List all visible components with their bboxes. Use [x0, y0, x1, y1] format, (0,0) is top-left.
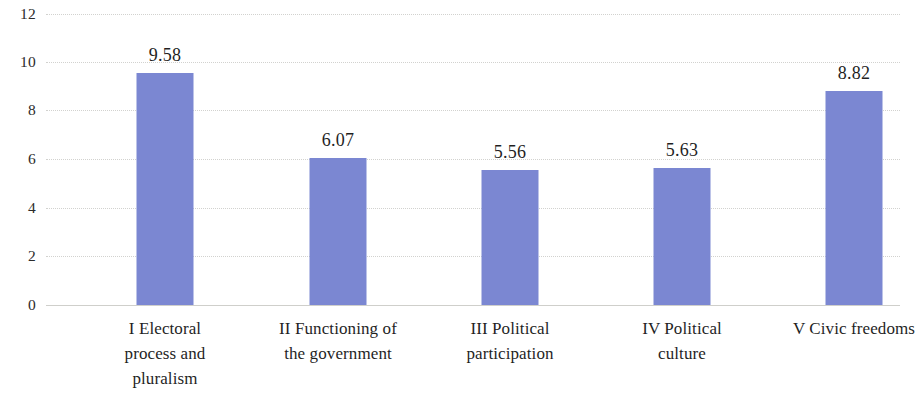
bar-civic-freedoms[interactable]	[826, 91, 883, 305]
y-axis-tick-6: 6	[0, 151, 36, 167]
bar-political-culture[interactable]	[654, 168, 711, 305]
x-axis-label-functioning-of-the-government: II Functioning of the government	[253, 316, 423, 366]
x-axis-labels: I Electoral process and pluralism II Fun…	[46, 310, 900, 406]
x-axis-label-political-participation: III Political participation	[425, 316, 595, 366]
bar-slot-2: 6.07	[253, 0, 423, 305]
bars-layer: 9.58 6.07 5.56 5.63 8.82	[46, 0, 900, 306]
x-axis-label-civic-freedoms: V Civic freedoms	[769, 316, 919, 341]
y-axis-tick-0: 0	[0, 297, 36, 313]
y-axis-tick-12: 12	[0, 6, 36, 22]
bar-slot-4: 5.63	[597, 0, 767, 305]
y-axis-tick-8: 8	[0, 102, 36, 118]
bar-electoral-process-and-pluralism[interactable]	[137, 73, 194, 305]
plot-area: 12 10 8 6 4 2 0 9.58 6.07 5.56	[46, 0, 900, 306]
x-axis-label-line: the government	[253, 341, 423, 366]
bar-value-label-3: 5.56	[494, 143, 527, 161]
x-axis-label-line: participation	[425, 341, 595, 366]
bar-slot-3: 5.56	[425, 0, 595, 305]
bar-value-label-2: 6.07	[322, 131, 355, 149]
bar-functioning-of-the-government[interactable]	[310, 158, 367, 305]
x-axis-label-political-culture: IV Political culture	[597, 316, 767, 366]
x-axis-label-line: I Electoral	[80, 316, 250, 341]
bar-value-label-5: 8.82	[838, 64, 871, 82]
bar-slot-5: 8.82	[769, 0, 919, 305]
x-axis-label-line: pluralism	[80, 366, 250, 391]
x-axis-label-line: II Functioning of	[253, 316, 423, 341]
x-axis-label-line: IV Political	[597, 316, 767, 341]
bar-slot-1: 9.58	[80, 0, 250, 305]
y-axis-tick-10: 10	[0, 54, 36, 70]
x-axis-label-line: V Civic freedoms	[769, 316, 919, 341]
x-axis-label-electoral-process-and-pluralism: I Electoral process and pluralism	[80, 316, 250, 391]
bar-value-label-1: 9.58	[149, 46, 182, 64]
bar-political-participation[interactable]	[482, 170, 539, 305]
x-axis-label-line: process and	[80, 341, 250, 366]
x-axis-label-line: culture	[597, 341, 767, 366]
bar-value-label-4: 5.63	[666, 141, 699, 159]
y-axis-tick-2: 2	[0, 248, 36, 264]
x-axis-label-line: III Political	[425, 316, 595, 341]
y-axis-tick-4: 4	[0, 200, 36, 216]
